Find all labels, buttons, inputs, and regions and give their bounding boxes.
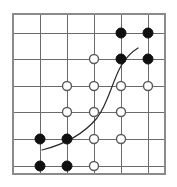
figure-container bbox=[0, 0, 177, 187]
grid-border bbox=[13, 14, 165, 174]
data-point-open-1 bbox=[63, 82, 72, 91]
data-point-open-9 bbox=[117, 135, 126, 144]
scatter-plot-svg bbox=[0, 0, 177, 187]
data-point-open-4 bbox=[144, 82, 153, 91]
data-point-open-5 bbox=[63, 108, 72, 117]
data-point-filled-3 bbox=[143, 54, 153, 64]
data-point-open-2 bbox=[90, 82, 99, 91]
data-point-filled-0 bbox=[116, 28, 126, 38]
plot-border-rect bbox=[13, 14, 165, 174]
data-point-filled-6 bbox=[35, 161, 45, 171]
data-point-filled-4 bbox=[35, 134, 45, 144]
data-point-open-10 bbox=[90, 162, 99, 171]
data-point-open-8 bbox=[90, 135, 99, 144]
data-point-open-6 bbox=[90, 108, 99, 117]
data-point-open-0 bbox=[90, 55, 99, 64]
grid-lines-group bbox=[13, 14, 165, 174]
data-point-open-7 bbox=[117, 108, 126, 117]
data-point-filled-1 bbox=[143, 28, 153, 38]
data-point-filled-2 bbox=[116, 54, 126, 64]
data-point-filled-7 bbox=[62, 161, 72, 171]
data-point-open-3 bbox=[117, 82, 126, 91]
data-point-filled-5 bbox=[62, 134, 72, 144]
